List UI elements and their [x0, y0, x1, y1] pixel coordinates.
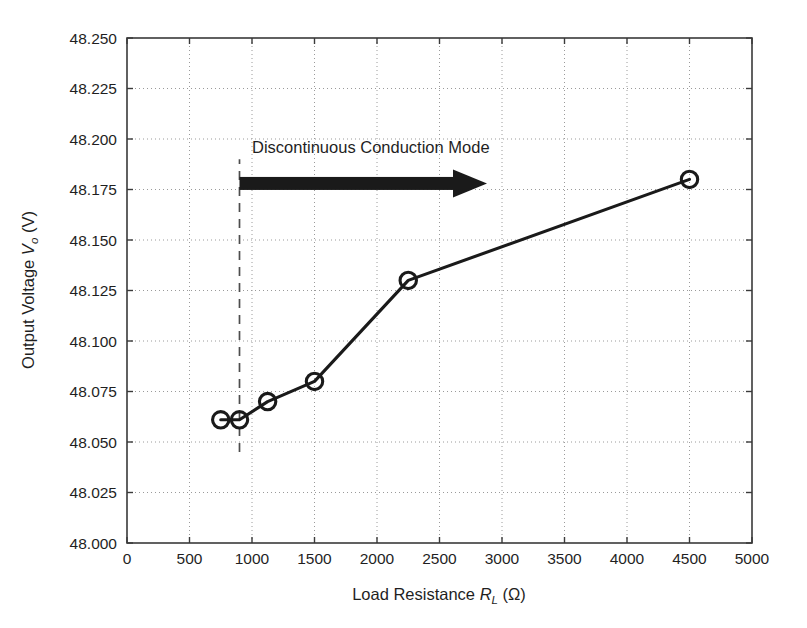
y-tick-label: 48.000: [70, 535, 118, 552]
y-tick-label: 48.050: [70, 434, 118, 451]
title-symbol: R: [480, 585, 492, 603]
x-tick-label: 4000: [610, 550, 645, 567]
arrow-shaft: [240, 177, 454, 190]
x-tick-label: 3000: [485, 550, 520, 567]
x-tick-label: 2000: [360, 550, 395, 567]
x-tick-label: 500: [177, 550, 203, 567]
title-lead: Output Voltage: [19, 255, 37, 369]
y-axis-title: Output Voltage Vo (V): [19, 211, 40, 369]
x-axis-tick-labels: 0500100015002000250030003500400045005000: [123, 550, 770, 567]
x-tick-label: 2500: [422, 550, 457, 567]
x-tick-label: 0: [123, 550, 132, 567]
title-unit: (V): [19, 211, 37, 238]
line-chart: 0500100015002000250030003500400045005000…: [0, 0, 807, 628]
y-tick-label: 48.225: [70, 80, 117, 97]
y-tick-label: 48.075: [70, 383, 117, 400]
y-tick-label: 48.100: [70, 333, 118, 350]
title-unit: (Ω): [498, 585, 526, 603]
x-tick-label: 3500: [547, 550, 582, 567]
y-tick-label: 48.250: [70, 30, 118, 47]
y-tick-label: 48.200: [70, 131, 118, 148]
x-tick-label: 4500: [672, 550, 707, 567]
x-tick-label: 5000: [735, 550, 770, 567]
title-lead: Load Resistance: [352, 585, 480, 603]
y-tick-label: 48.125: [70, 282, 117, 299]
x-tick-label: 1500: [297, 550, 332, 567]
x-tick-label: 1000: [235, 550, 270, 567]
y-tick-label: 48.150: [70, 232, 118, 249]
y-tick-label: 48.175: [70, 181, 117, 198]
dcm-region-label: Discontinuous Conduction Mode: [252, 138, 490, 156]
y-tick-label: 48.025: [70, 484, 117, 501]
chart-figure: 0500100015002000250030003500400045005000…: [0, 0, 807, 628]
y-axis-tick-labels: 48.00048.02548.05048.07548.10048.12548.1…: [70, 30, 118, 552]
x-axis-title: Load Resistance RL (Ω): [352, 585, 526, 606]
